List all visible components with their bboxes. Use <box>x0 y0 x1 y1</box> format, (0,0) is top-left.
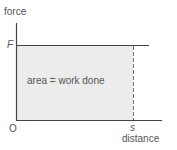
force-marker: F <box>7 39 13 50</box>
x-axis-label: distance <box>122 133 159 144</box>
origin-label: O <box>9 123 17 134</box>
y-axis-label: force <box>4 6 26 17</box>
distance-marker: s <box>130 122 135 133</box>
area-label: area = work done <box>27 75 105 86</box>
